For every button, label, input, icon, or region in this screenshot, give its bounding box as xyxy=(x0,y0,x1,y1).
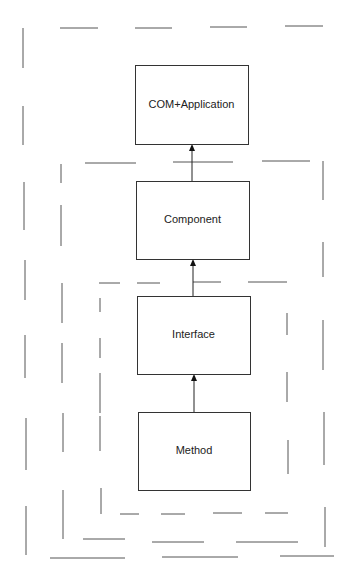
arrowhead-icon xyxy=(191,374,197,381)
edge-interface-to-component xyxy=(190,259,196,296)
node-label-component: Component xyxy=(136,214,249,225)
arrowhead-icon xyxy=(190,259,196,266)
diagram-canvas xyxy=(0,0,351,577)
node-label-interface: Interface xyxy=(137,329,250,340)
node-label-com-application: COM+Application xyxy=(135,99,248,110)
arrowhead-icon xyxy=(189,144,195,151)
node-label-method: Method xyxy=(138,445,250,456)
edge-method-to-interface xyxy=(191,374,197,412)
